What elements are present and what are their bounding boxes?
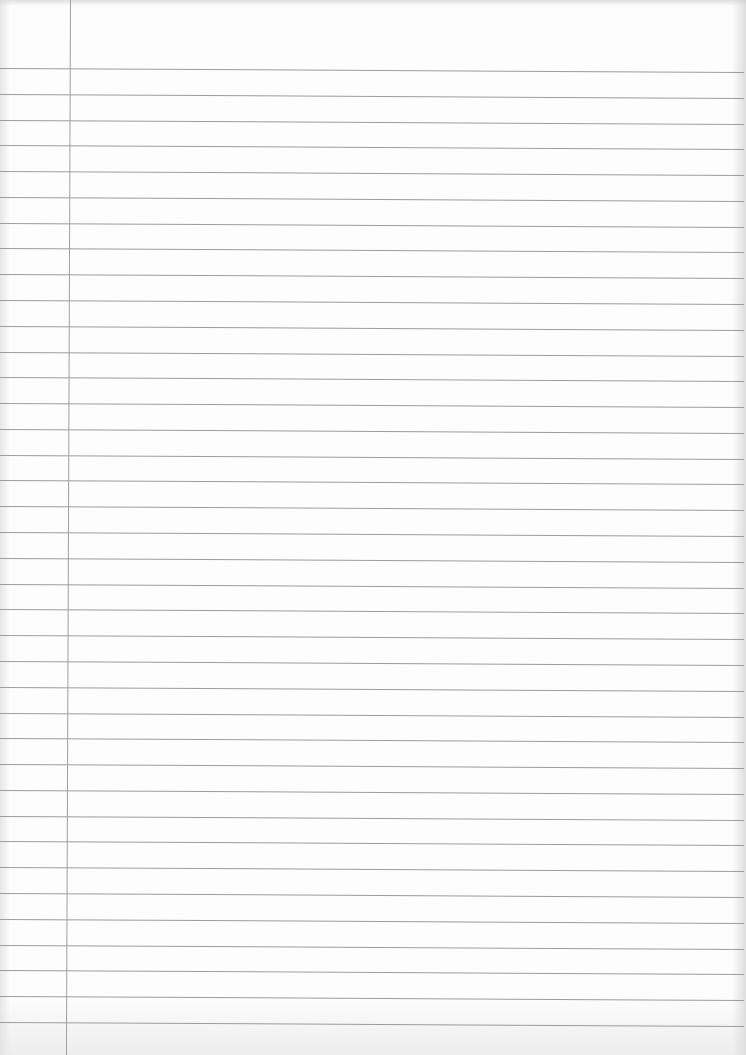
ruled-line bbox=[0, 171, 744, 176]
ruled-line bbox=[0, 867, 744, 872]
ruled-line bbox=[0, 326, 744, 331]
ruled-line bbox=[0, 970, 744, 975]
ruled-line bbox=[0, 790, 744, 795]
ruled-line bbox=[0, 429, 744, 434]
ruled-line bbox=[0, 68, 744, 73]
ruled-line bbox=[0, 584, 744, 589]
ruled-line bbox=[0, 274, 744, 279]
ruled-line bbox=[0, 661, 744, 666]
ruled-line bbox=[0, 816, 744, 821]
ruled-lines bbox=[0, 0, 746, 1055]
ruled-line bbox=[0, 506, 744, 511]
ruled-line bbox=[0, 223, 744, 228]
ruled-line bbox=[0, 94, 744, 99]
ruled-line bbox=[0, 145, 744, 150]
ruled-line bbox=[0, 919, 744, 924]
ruled-line bbox=[0, 558, 744, 563]
ruled-line bbox=[0, 120, 744, 125]
ruled-line bbox=[0, 455, 744, 460]
ruled-line bbox=[0, 996, 744, 1001]
ruled-line bbox=[0, 893, 744, 898]
ruled-line bbox=[0, 377, 744, 382]
ruled-line bbox=[0, 248, 744, 253]
ruled-line bbox=[0, 738, 744, 743]
ruled-line bbox=[0, 352, 744, 357]
ruled-line bbox=[0, 635, 744, 640]
ruled-line bbox=[0, 713, 744, 718]
ruled-line bbox=[0, 687, 744, 692]
ruled-line bbox=[0, 403, 744, 408]
ruled-line bbox=[0, 764, 744, 769]
ruled-line bbox=[0, 841, 744, 846]
lined-paper-page bbox=[0, 0, 746, 1055]
ruled-line bbox=[0, 945, 744, 950]
ruled-line bbox=[0, 609, 744, 614]
ruled-line bbox=[0, 480, 744, 485]
ruled-line bbox=[0, 197, 744, 202]
ruled-line bbox=[0, 532, 744, 537]
ruled-line bbox=[0, 1022, 744, 1027]
ruled-line bbox=[0, 300, 744, 305]
